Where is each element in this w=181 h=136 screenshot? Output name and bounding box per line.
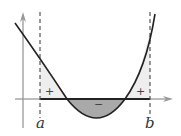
signed-area-diagram: a b + − + xyxy=(0,0,181,136)
sign-left-plus: + xyxy=(45,85,54,98)
label-b: b xyxy=(145,114,155,132)
sign-right-plus: + xyxy=(136,85,145,98)
sign-middle-minus: − xyxy=(94,98,103,111)
label-a: a xyxy=(36,114,45,132)
